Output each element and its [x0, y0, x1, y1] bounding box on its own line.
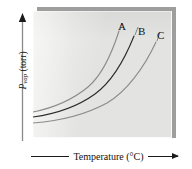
curve-label-b: B [138, 26, 145, 37]
x-axis-arrow-icon [148, 156, 178, 157]
curve-label-c: C [157, 30, 164, 41]
x-axis: Temperature (°C) [23, 148, 186, 164]
curve-a [33, 31, 119, 112]
y-axis [17, 13, 28, 141]
vapor-pressure-figure: A B C Pvap (torr) Temperature (°C) [0, 0, 192, 169]
curve-label-a: A [118, 21, 126, 32]
curve-b [33, 36, 134, 117]
panel-shadow-right [172, 7, 176, 138]
x-axis-label: Temperature (°C) [73, 151, 143, 162]
curve-c [33, 42, 156, 123]
y-axis-arrow-icon [19, 13, 26, 22]
curves-layer [33, 11, 172, 138]
x-axis-rule-left [31, 156, 69, 157]
